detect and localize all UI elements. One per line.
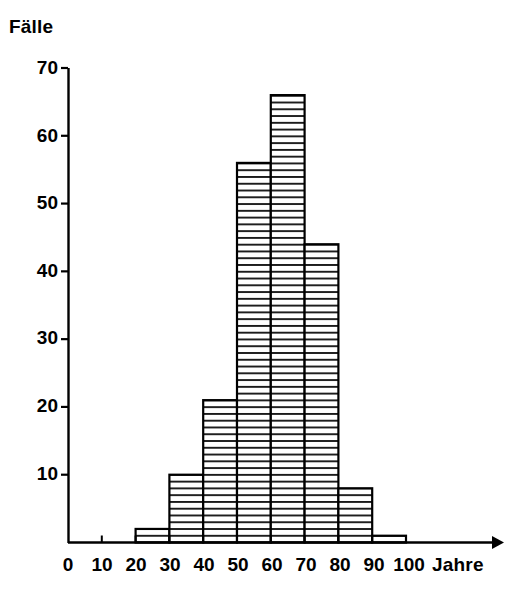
histogram-bar: [271, 95, 305, 542]
histogram-bar: [169, 475, 203, 543]
bar-series: [136, 95, 406, 542]
histogram-bar: [338, 488, 372, 542]
plot-area: [0, 0, 515, 591]
histogram-chart: Fälle Jahre 70 60 50 40 30 20 10 0 10 20…: [0, 0, 515, 591]
histogram-bar: [237, 163, 271, 543]
histogram-bar: [203, 400, 237, 542]
histogram-bar: [305, 244, 339, 542]
histogram-bar: [136, 529, 170, 543]
